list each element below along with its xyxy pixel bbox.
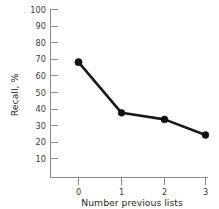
data-point-marker: [202, 132, 209, 139]
y-tick-label-50: 50: [36, 88, 46, 98]
y-tick-label-70: 70: [36, 54, 46, 64]
data-series-line: [79, 62, 206, 135]
data-point-marker: [118, 109, 125, 116]
line-chart-canvas: 100 90 80 70 60 50 40 30 20 10 0 1 2 3 N…: [0, 0, 219, 209]
x-axis-ticks: [79, 178, 206, 185]
y-axis-ticks: [51, 10, 58, 159]
y-tick-label-90: 90: [36, 21, 46, 31]
y-tick-label-80: 80: [36, 38, 46, 48]
x-axis-title: Number previous lists: [81, 197, 183, 208]
y-axis-title: Recall, %: [9, 74, 20, 117]
y-tick-label-10: 10: [36, 154, 46, 164]
y-tick-label-60: 60: [36, 71, 46, 81]
data-point-marker: [161, 116, 168, 123]
y-tick-label-30: 30: [36, 121, 46, 131]
x-tick-label-2: 2: [162, 187, 167, 197]
chart-figure: 100 90 80 70 60 50 40 30 20 10 0 1 2 3 N…: [0, 0, 219, 209]
x-tick-label-0: 0: [76, 187, 81, 197]
y-tick-label-100: 100: [30, 5, 46, 15]
y-tick-label-40: 40: [36, 104, 46, 114]
x-tick-label-1: 1: [119, 187, 124, 197]
y-tick-label-20: 20: [36, 137, 46, 147]
x-tick-label-3: 3: [203, 187, 208, 197]
data-point-marker: [75, 59, 82, 66]
